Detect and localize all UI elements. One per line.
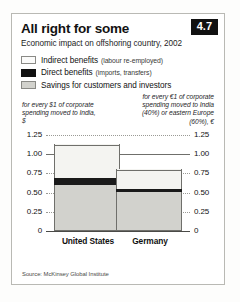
y-axis-tick-left-1.25: 1.25 <box>16 131 42 139</box>
legend-note-direct: (imports, transfers) <box>96 68 152 77</box>
gridline-0 <box>46 231 190 232</box>
direct-swatch-icon <box>21 69 36 77</box>
bar-segment-united-states-0 <box>54 185 120 230</box>
chart-number-badge: 4.7 <box>191 19 218 35</box>
y-axis-tick-right-0.75: 0.75 <box>194 169 220 177</box>
gridline-1.25 <box>46 135 190 136</box>
legend-label-savings: Savings for customers and investors <box>41 81 171 90</box>
source-note: Source: McKinsey Global Institute <box>22 271 109 277</box>
y-axis-tick-left-0.25: 0.25 <box>16 208 42 216</box>
y-axis-tick-left-0.75: 0.75 <box>16 169 42 177</box>
y-axis-tick-right-0.50: 0.50 <box>194 189 220 197</box>
page-title: All right for some <box>21 21 215 36</box>
annotation-right: for every €1 of corporate spending moved… <box>128 93 214 126</box>
chart-header: 4.7 All right for some Economic impact o… <box>12 14 224 49</box>
category-label-united-states: United States <box>55 236 121 246</box>
legend-item-savings: Savings for customers and investors <box>21 80 215 90</box>
annotation-left: for every $1 of corporate spending moved… <box>22 101 96 126</box>
bar-segment-germany-0 <box>116 192 182 230</box>
y-axis-tick-right-1.25: 1.25 <box>194 131 220 139</box>
legend-label-indirect: Indirect benefits <box>41 56 98 65</box>
indirect-swatch-icon <box>21 56 36 64</box>
y-axis-tick-right-1.00: 1.00 <box>194 150 220 158</box>
bar-segment-germany-1 <box>116 189 182 191</box>
bar-segment-germany-2 <box>116 169 182 190</box>
category-label-germany: Germany <box>117 236 183 246</box>
chart-subtitle: Economic impact on offshoring country, 2… <box>21 38 215 49</box>
plot-area: for every $1 of corporate spending moved… <box>12 95 224 265</box>
bar-segment-united-states-1 <box>54 178 120 186</box>
y-axis-tick-left-1.00: 1.00 <box>16 150 42 158</box>
y-axis-tick-right-0: 0 <box>194 227 220 235</box>
bar-germany: Germany <box>116 170 182 231</box>
y-axis-tick-right-0.25: 0.25 <box>194 208 220 216</box>
plot-canvas: 1.251.251.001.000.750.750.500.500.250.25… <box>46 135 190 231</box>
bar-top-border <box>116 170 182 171</box>
bar-segment-united-states-2 <box>54 144 120 178</box>
legend-item-indirect: Indirect benefits (labour re-employed) <box>21 55 215 65</box>
bar-top-border <box>54 145 120 146</box>
y-axis-tick-left-0.50: 0.50 <box>16 189 42 197</box>
chart-legend: Indirect benefits (labour re-employed) D… <box>12 55 224 90</box>
legend-item-direct: Direct benefits (imports, transfers) <box>21 68 215 78</box>
legend-note-indirect: (labour re-employed) <box>101 56 163 65</box>
savings-swatch-icon <box>21 81 36 89</box>
chart-card: 4.7 All right for some Economic impact o… <box>11 13 225 285</box>
legend-label-direct: Direct benefits <box>41 68 93 77</box>
bar-united-states: United States <box>54 145 120 231</box>
y-axis-tick-left-0: 0 <box>16 227 42 235</box>
